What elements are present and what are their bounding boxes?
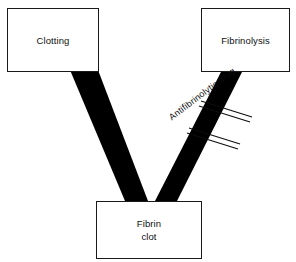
node-label-fibrinolysis: Fibrinolysis [221, 34, 270, 47]
node-box-fibrin-clot[interactable]: Fibrin clot [96, 201, 202, 259]
node-label-fibrin-clot: Fibrin clot [137, 217, 161, 243]
node-box-fibrinolysis[interactable]: Fibrinolysis [201, 8, 290, 72]
node-box-clotting[interactable]: Clotting [7, 8, 99, 72]
diagram-canvas: Clotting Fibrinolysis Fibrin clot Antifi… [0, 0, 296, 262]
arrow-clotting-to-fibrin-clot [70, 70, 148, 201]
node-label-clotting: Clotting [36, 34, 69, 47]
